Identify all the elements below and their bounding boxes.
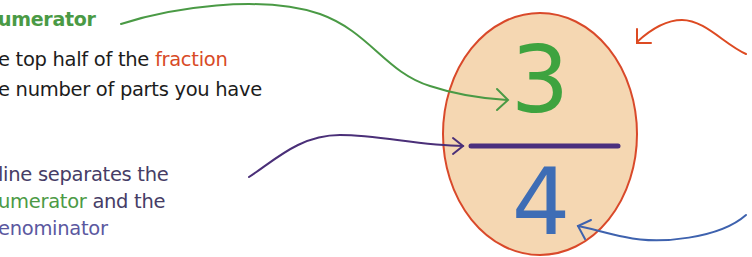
text-span: and the bbox=[87, 190, 166, 213]
fraction-diagram bbox=[0, 0, 752, 257]
numerator-heading: umerator bbox=[0, 8, 96, 30]
text-span: e top half of the bbox=[0, 48, 155, 71]
fraction-arrow bbox=[637, 20, 746, 54]
denominator-word: enominator bbox=[0, 217, 108, 240]
numerator-word: umerator bbox=[0, 190, 87, 213]
numerator-description-line-2: e number of parts you have bbox=[0, 78, 262, 101]
bar-description-line-2: umerator and the bbox=[0, 190, 165, 213]
numerator-digit: 3 bbox=[490, 35, 590, 127]
fraction-bar-arrow bbox=[249, 135, 463, 177]
numerator-description-line-1: e top half of the fraction bbox=[0, 48, 227, 71]
bar-description-line-1: line separates the bbox=[0, 163, 168, 186]
fraction-word: fraction bbox=[155, 48, 228, 71]
denominator-digit: 4 bbox=[491, 157, 591, 249]
